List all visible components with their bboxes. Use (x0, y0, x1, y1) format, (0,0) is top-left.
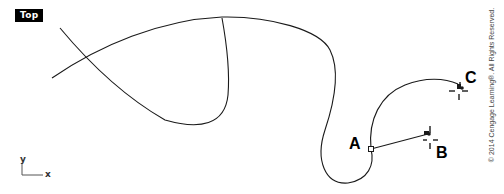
top-viewport[interactable]: Top (0, 0, 504, 194)
point-a-grip-icon[interactable] (369, 147, 374, 152)
point-a-label: A (349, 136, 361, 152)
point-c-label: C (465, 70, 477, 86)
axis-y-label: y (20, 155, 26, 164)
world-axis-icon (22, 163, 43, 175)
point-b-label: B (436, 145, 448, 161)
copyright-notice: © 2014 Cengage Learning®. All Rights Res… (488, 0, 495, 180)
axis-x-label: x (45, 170, 51, 179)
drawing-canvas[interactable] (0, 0, 504, 194)
curve-left-loop[interactable] (60, 18, 229, 125)
curve-main-s[interactable] (52, 17, 458, 183)
line-a-to-b[interactable] (371, 134, 428, 149)
